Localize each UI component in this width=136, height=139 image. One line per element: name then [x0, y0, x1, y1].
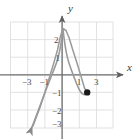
x-tick-label-3: 3: [94, 77, 99, 87]
y-tick-label-neg2: −2: [52, 106, 62, 116]
graph-figure: y x −3 −1 1 3 2 1 −1 −2 −3: [0, 0, 136, 139]
y-tick-label-neg1: −1: [52, 88, 62, 98]
coordinate-plane: y x −3 −1 1 3 2 1 −1 −2 −3: [0, 0, 136, 139]
x-tick-label-neg1: −1: [39, 77, 49, 87]
x-axis-label: x: [126, 61, 132, 73]
y-tick-label-2: 2: [54, 35, 59, 45]
x-tick-label-1: 1: [77, 77, 82, 87]
y-tick-label-1: 1: [56, 53, 61, 63]
endpoint-dot: [84, 89, 90, 95]
y-axis-label: y: [67, 2, 73, 14]
x-tick-label-neg3: −3: [22, 77, 32, 87]
y-tick-label-neg3: −3: [52, 119, 62, 129]
